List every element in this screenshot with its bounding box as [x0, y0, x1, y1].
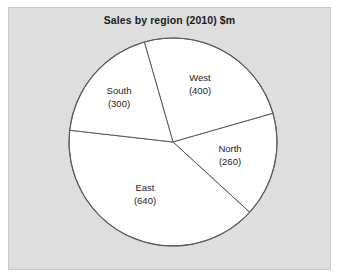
- pie-label-value: (300): [107, 97, 132, 110]
- pie-label-west: West(400): [189, 72, 211, 97]
- pie-slices: [69, 38, 277, 246]
- pie-label-name: South: [107, 85, 132, 98]
- pie-label-name: East: [134, 182, 156, 195]
- pie-label-name: North: [218, 143, 241, 156]
- pie-label-east: East(640): [134, 182, 156, 207]
- pie-label-south: South(300): [107, 85, 132, 110]
- pie-label-name: West: [189, 72, 211, 85]
- pie-label-value: (260): [218, 155, 241, 168]
- pie-chart: [0, 0, 339, 278]
- chart-figure: Sales by region (2010) $m West(400)North…: [0, 0, 339, 278]
- pie-label-north: North(260): [218, 143, 241, 168]
- pie-label-value: (640): [134, 194, 156, 207]
- pie-label-value: (400): [189, 84, 211, 97]
